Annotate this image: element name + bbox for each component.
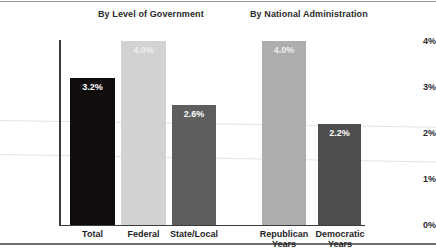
y-axis-tick-2: 2% — [384, 128, 436, 138]
bar-value-state-local: 2.6% — [172, 109, 216, 119]
x-axis-baseline — [59, 225, 365, 226]
y-axis-tick-0: 0% — [384, 220, 436, 230]
figure-top-rule — [0, 1, 436, 2]
scan-artifact-line — [0, 120, 436, 128]
figure-bottom-rule — [0, 243, 436, 245]
bar-label-total: Total — [70, 229, 115, 239]
bar-total: 3.2% — [70, 78, 115, 225]
panel-caption-government: By Level of Government — [98, 9, 204, 19]
bar-value-total: 3.2% — [70, 82, 115, 92]
bar-label-state-local: State/Local — [168, 229, 220, 239]
bar-state-local: 2.6% — [172, 105, 216, 225]
panel-caption-administration: By National Administration — [250, 9, 368, 19]
bar-label-federal: Federal — [121, 229, 166, 239]
bar-chart-figure: By Level of Government By National Admin… — [0, 0, 436, 252]
bar-federal: 4.0% — [121, 41, 166, 225]
y-axis-tick-3: 3% — [384, 82, 436, 92]
y-axis-line — [59, 40, 61, 226]
bar-label-democratic-years: Democratic Years — [313, 229, 367, 249]
scan-artifact-line — [0, 154, 436, 163]
bar-value-democratic-years: 2.2% — [318, 128, 361, 138]
bar-democratic-years: 2.2% — [318, 124, 361, 225]
bar-republican-years: 4.0% — [262, 41, 306, 225]
bar-value-federal: 4.0% — [121, 45, 166, 55]
bar-label-republican-years: Republican Years — [256, 229, 312, 249]
bar-value-republican-years: 4.0% — [262, 45, 306, 55]
y-axis-tick-1: 1% — [384, 174, 436, 184]
y-axis-tick-4: 4% — [384, 36, 436, 46]
